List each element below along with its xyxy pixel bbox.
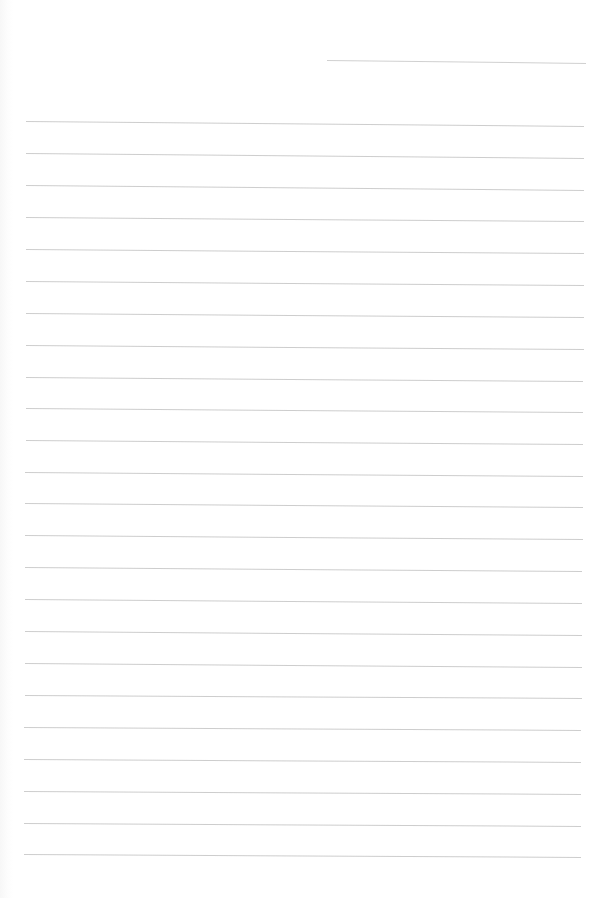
ruled-line xyxy=(25,631,582,636)
ruled-line xyxy=(24,823,581,827)
ruled-line xyxy=(24,854,581,858)
lined-paper-page xyxy=(0,0,607,898)
ruled-line xyxy=(26,313,584,318)
ruled-line xyxy=(25,472,583,477)
ruled-line xyxy=(26,281,584,286)
ruled-line xyxy=(26,185,584,191)
ruled-line xyxy=(25,663,582,668)
ruled-line xyxy=(26,249,584,254)
ruled-line xyxy=(26,153,584,159)
ruled-line xyxy=(26,345,584,350)
ruled-line xyxy=(25,535,583,540)
ruled-line xyxy=(26,440,583,445)
header-date-line xyxy=(327,60,586,64)
ruled-line xyxy=(25,695,582,699)
ruled-line xyxy=(26,408,583,413)
ruled-line xyxy=(26,217,584,222)
ruled-line xyxy=(26,121,584,127)
ruled-line xyxy=(24,791,581,795)
ruled-line xyxy=(25,503,583,508)
ruled-line xyxy=(25,567,582,572)
ruled-line xyxy=(24,727,581,731)
ruled-line xyxy=(26,377,583,382)
ruled-line xyxy=(25,599,582,604)
ruled-line xyxy=(24,759,581,763)
